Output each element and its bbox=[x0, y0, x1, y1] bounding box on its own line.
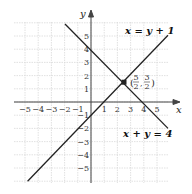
x-tick-label: −4 bbox=[32, 105, 44, 114]
y-tick-label: −3 bbox=[77, 138, 89, 147]
y-tick-label: 5 bbox=[84, 32, 89, 41]
x-tick-labels: −5−4−3−2−112345 bbox=[19, 105, 159, 114]
y-tick-label: 2 bbox=[84, 72, 89, 81]
intersection-point bbox=[122, 80, 127, 85]
line-label-x-plus-y-equals-4: x + y = 4 bbox=[122, 128, 172, 139]
y-axis-arrow-icon bbox=[89, 10, 94, 17]
y-tick-label: −4 bbox=[77, 151, 89, 160]
x-tick-label: 1 bbox=[102, 105, 107, 114]
coordinate-plane: x y −5−4−3−2−112345 54321−1−2−3−4−5 ( 5 … bbox=[0, 0, 192, 194]
y-tick-label: −5 bbox=[77, 164, 89, 173]
y-tick-label: 1 bbox=[84, 85, 89, 94]
x-tick-label: −3 bbox=[46, 105, 58, 114]
y-tick-label: 3 bbox=[84, 58, 89, 67]
x-tick-label: −5 bbox=[19, 105, 31, 114]
svg-text:2: 2 bbox=[133, 82, 138, 91]
svg-text:5: 5 bbox=[133, 73, 138, 82]
line-label-x-equals-y-plus-1: x = y + 1 bbox=[124, 25, 174, 36]
y-tick-label: −2 bbox=[77, 124, 89, 133]
svg-text:3: 3 bbox=[144, 73, 149, 82]
x-tick-label: 3 bbox=[128, 105, 133, 114]
y-axis-label: y bbox=[79, 8, 86, 19]
svg-text:,: , bbox=[140, 79, 143, 88]
svg-text:2: 2 bbox=[144, 82, 149, 91]
svg-text:): ) bbox=[151, 77, 155, 88]
x-axis-label: x bbox=[176, 104, 182, 115]
x-tick-label: 2 bbox=[115, 105, 120, 114]
x-tick-label: −2 bbox=[59, 105, 71, 114]
x-tick-label: 5 bbox=[154, 105, 159, 114]
